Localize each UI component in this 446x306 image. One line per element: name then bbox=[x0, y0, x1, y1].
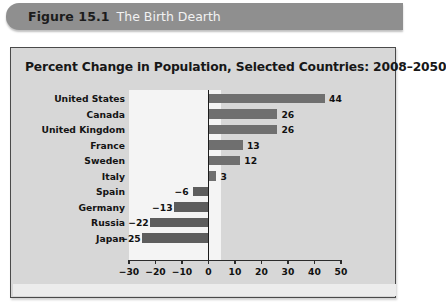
chart-panel: Percent Change in Population, Selected C… bbox=[10, 47, 396, 298]
category-label: United Kingdom bbox=[25, 124, 125, 135]
zero-axis-line bbox=[208, 90, 210, 260]
x-axis-tick bbox=[340, 260, 341, 264]
bar bbox=[174, 202, 208, 212]
bar bbox=[142, 233, 208, 243]
bar-value-label: 3 bbox=[220, 171, 226, 182]
category-label: Spain bbox=[25, 186, 125, 197]
bar-value-label: 26 bbox=[281, 109, 294, 120]
figure-header-banner: Figure 15.1 The Birth Dearth bbox=[6, 3, 403, 30]
x-axis-tick bbox=[155, 260, 156, 264]
x-axis-tick bbox=[208, 260, 209, 264]
bar-row: Spain−6 bbox=[25, 184, 383, 200]
x-axis-tick-label: 50 bbox=[328, 266, 354, 277]
bar-row: Russia−22 bbox=[25, 215, 383, 231]
bar-value-label: 26 bbox=[281, 124, 294, 135]
chart-title: Percent Change in Population, Selected C… bbox=[25, 60, 446, 74]
bar-value-label: 12 bbox=[244, 155, 257, 166]
x-axis-tick-label: −20 bbox=[143, 266, 169, 277]
category-label: Sweden bbox=[25, 155, 125, 166]
bar-row: United Kingdom26 bbox=[25, 122, 383, 138]
bar-row: United States44 bbox=[25, 91, 383, 107]
bar-row: Italy3 bbox=[25, 169, 383, 185]
x-axis-tick-label: 30 bbox=[275, 266, 301, 277]
x-axis-tick bbox=[128, 260, 129, 264]
figure-caption: The Birth Dearth bbox=[117, 9, 221, 24]
x-axis-tick bbox=[181, 260, 182, 264]
bar-value-label: −22 bbox=[128, 217, 146, 228]
bar-row: France13 bbox=[25, 138, 383, 154]
category-label: Japan bbox=[25, 233, 125, 244]
plot-area: United States44Canada26United Kingdom26F… bbox=[25, 90, 383, 286]
bar-rows: United States44Canada26United Kingdom26F… bbox=[25, 90, 383, 260]
bar-value-label: 13 bbox=[247, 140, 260, 151]
bar bbox=[209, 140, 243, 150]
category-label: Canada bbox=[25, 109, 125, 120]
category-label: Russia bbox=[25, 217, 125, 228]
x-axis-tick bbox=[314, 260, 315, 264]
figure-number: Figure 15.1 bbox=[28, 9, 110, 24]
bar bbox=[209, 125, 278, 135]
bar-row: Japan−25 bbox=[25, 231, 383, 247]
bar-value-label: −6 bbox=[171, 186, 189, 197]
panel-footer-strip bbox=[13, 284, 396, 296]
x-axis-tick-label: 0 bbox=[196, 266, 222, 277]
x-axis-tick bbox=[287, 260, 288, 264]
bar-value-label: −25 bbox=[120, 233, 138, 244]
bar-value-label: −13 bbox=[152, 202, 170, 213]
x-axis-tick-label: 10 bbox=[222, 266, 248, 277]
category-label: Italy bbox=[25, 171, 125, 182]
bar bbox=[209, 94, 326, 104]
x-axis-tick-label: 40 bbox=[302, 266, 328, 277]
bar-row: Sweden12 bbox=[25, 153, 383, 169]
bar-value-label: 44 bbox=[329, 93, 342, 104]
bar bbox=[209, 171, 217, 181]
bar bbox=[150, 218, 208, 228]
x-axis-tick-label: 20 bbox=[249, 266, 275, 277]
bar-row: Canada26 bbox=[25, 107, 383, 123]
bar bbox=[209, 156, 241, 166]
x-axis-tick-label: −30 bbox=[116, 266, 142, 277]
bar bbox=[193, 187, 209, 197]
bar bbox=[209, 109, 278, 119]
category-label: Germany bbox=[25, 202, 125, 213]
category-label: United States bbox=[25, 93, 125, 104]
x-axis-tick-label: −10 bbox=[169, 266, 195, 277]
x-axis-tick bbox=[234, 260, 235, 264]
x-axis-tick bbox=[261, 260, 262, 264]
bar-row: Germany−13 bbox=[25, 200, 383, 216]
category-label: France bbox=[25, 140, 125, 151]
